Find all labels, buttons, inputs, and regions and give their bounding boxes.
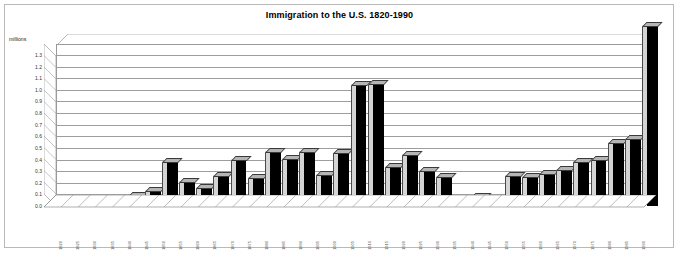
y-axis-tick-label: 0.1 — [8, 191, 42, 197]
y-axis-tick-label: 0.7 — [8, 122, 42, 128]
y-axis-tick-label: 0.0 — [8, 203, 42, 209]
x-axis-tick-label: 1895 — [315, 241, 320, 250]
x-axis-tick-label: 1830 — [92, 241, 97, 250]
x-axis-tick-label: 1940 — [470, 241, 475, 250]
bar — [373, 85, 384, 206]
x-axis-tick-label: 1890 — [298, 241, 303, 250]
x-axis-tick-label: 1985 — [624, 241, 629, 250]
x-axis-tick-label: 1920 — [401, 241, 406, 250]
y-axis-unit-label: millions — [9, 36, 26, 42]
y-axis-tick-label: 0.9 — [8, 98, 42, 104]
bar-front-face — [356, 86, 367, 206]
x-axis-tick-label: 1885 — [281, 241, 286, 250]
x-axis-tick-label: 1860 — [195, 241, 200, 250]
x-axis-tick-label: 1875 — [247, 241, 252, 250]
x-axis-tick-label: 1975 — [590, 241, 595, 250]
x-axis-tick-label: 1850 — [161, 241, 166, 250]
x-axis-tick-label: 1900 — [332, 241, 337, 250]
x-axis-tick-label: 1905 — [350, 241, 355, 250]
x-axis-tick-label: 1950 — [504, 241, 509, 250]
plot-top-deck — [56, 32, 656, 44]
plot-area — [56, 44, 656, 206]
y-axis-tick-label: 0.2 — [8, 180, 42, 186]
x-axis-tick-label: 1870 — [230, 241, 235, 250]
chart-title: Immigration to the U.S. 1820-1990 — [0, 10, 679, 20]
x-axis-tick-label: 1825 — [75, 241, 80, 250]
x-axis-tick-label: 1990 — [641, 241, 646, 250]
y-axis-tick-label: 0.8 — [8, 110, 42, 116]
y-axis-tick-label: 1.0 — [8, 87, 42, 93]
x-axis-tick-label: 1820 — [58, 241, 63, 250]
y-axis-tick-label: 1.1 — [8, 75, 42, 81]
chart-screenshot: Immigration to the U.S. 1820-1990 millio… — [0, 0, 679, 253]
x-axis-tick-label: 1955 — [521, 241, 526, 250]
y-axis: 1.31.21.11.00.90.80.70.60.50.40.30.20.10… — [8, 44, 42, 206]
bar-front-face — [647, 27, 658, 206]
y-axis-tick-label: 0.3 — [8, 168, 42, 174]
x-axis-tick-label: 1935 — [452, 241, 457, 250]
bar — [647, 27, 658, 206]
x-axis-tick-label: 1925 — [418, 241, 423, 250]
x-axis-tick-label: 1835 — [110, 241, 115, 250]
bar-series — [56, 44, 656, 206]
x-axis-tick-label: 1880 — [264, 241, 269, 250]
y-axis-tick-label: 0.5 — [8, 145, 42, 151]
plot-left-wall — [44, 44, 56, 206]
x-axis-tick-label: 1910 — [367, 241, 372, 250]
x-axis-tick-label: 1970 — [572, 241, 577, 250]
y-axis-tick-label: 1.2 — [8, 64, 42, 70]
x-axis-tick-label: 1865 — [212, 241, 217, 250]
x-axis-tick-label: 1930 — [435, 241, 440, 250]
left-wall-surface — [44, 44, 56, 206]
x-axis-tick-label: 1855 — [178, 241, 183, 250]
x-axis-tick-label: 1945 — [487, 241, 492, 250]
bar — [356, 86, 367, 206]
x-axis-tick-label: 1840 — [127, 241, 132, 250]
x-axis-tick-label: 1845 — [144, 241, 149, 250]
bar-front-face — [373, 85, 384, 206]
y-axis-tick-label: 0.6 — [8, 133, 42, 139]
x-axis-tick-label: 1960 — [538, 241, 543, 250]
x-axis-tick-label: 1915 — [384, 241, 389, 250]
y-axis-tick-label: 1.3 — [8, 52, 42, 58]
y-axis-tick-label: 0.4 — [8, 157, 42, 163]
x-axis-tick-label: 1980 — [607, 241, 612, 250]
x-axis-tick-label: 1965 — [555, 241, 560, 250]
x-axis-tick-labels: 1820182518301835184018451850185518601865… — [44, 212, 664, 250]
